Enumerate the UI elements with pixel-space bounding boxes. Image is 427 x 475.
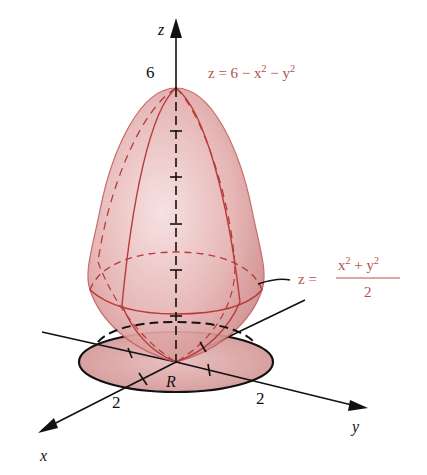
x-tick-label-2: 2 [112, 393, 121, 412]
z-tick-label-6: 6 [146, 63, 155, 82]
svg-text:z = 6 − x2 − y2: z = 6 − x2 − y2 [208, 63, 295, 81]
x-axis-label: x [39, 447, 47, 464]
lower-surface-equation: z = x2 + y2 2 [298, 255, 400, 300]
region-label: R [165, 373, 176, 390]
y-axis-arrowhead [348, 400, 368, 411]
x-axis-arrowhead [38, 418, 58, 433]
z-axis-arrowhead [170, 18, 182, 38]
upper-surface-equation: z = 6 − x2 − y2 [208, 63, 295, 81]
solid-between-paraboloids-figure: z 6 x y 2 2 R z = 6 − x2 − y2 z = x2 + y… [0, 0, 427, 475]
y-axis-label: y [350, 418, 360, 436]
z-axis-label: z [157, 21, 165, 38]
svg-text:z =: z = [298, 271, 317, 287]
svg-text:x2 + y2: x2 + y2 [338, 255, 379, 273]
svg-text:2: 2 [364, 284, 372, 300]
y-tick-label-2: 2 [256, 389, 265, 408]
